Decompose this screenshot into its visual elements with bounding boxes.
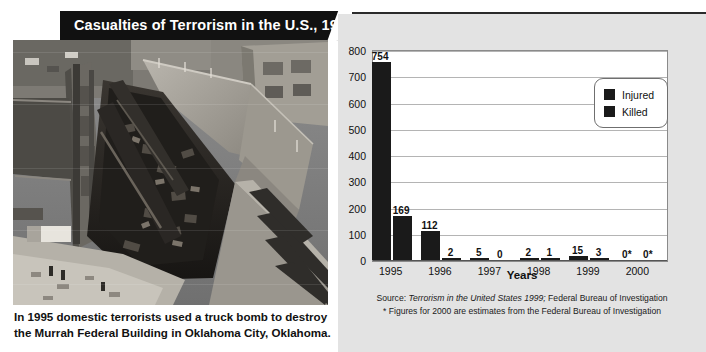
x-axis-line bbox=[373, 260, 667, 261]
legend-label-killed: Killed bbox=[622, 106, 648, 118]
legend-swatch-killed bbox=[604, 106, 615, 117]
source-suffix: Federal Bureau of Investigation bbox=[546, 293, 668, 303]
bar-value-label: 0 bbox=[497, 249, 503, 260]
y-tick-label: 600 bbox=[326, 98, 366, 110]
y-tick-label: 200 bbox=[326, 203, 366, 215]
legend-label-injured: Injured bbox=[622, 89, 654, 101]
bar bbox=[520, 258, 539, 260]
source-note: Source: Terrorism in the United States 1… bbox=[338, 292, 706, 319]
caption-line-1: In 1995 domestic terrorists used a truck… bbox=[14, 309, 334, 325]
bar bbox=[541, 258, 560, 260]
gridline bbox=[373, 130, 667, 131]
chart-panel: 0100200300400500600700800 19951996199719… bbox=[338, 14, 706, 352]
title-banner: Casualties of Terrorism in the U.S., 199… bbox=[60, 11, 352, 41]
chart-legend: Injured Killed bbox=[594, 78, 668, 128]
y-tick-label: 0 bbox=[326, 255, 366, 267]
infographic-page: Casualties of Terrorism in the U.S., 199… bbox=[0, 0, 706, 352]
bar bbox=[393, 216, 412, 260]
bar-value-label: 112 bbox=[421, 220, 437, 231]
legend-item-killed: Killed bbox=[604, 103, 659, 120]
gridline bbox=[373, 182, 667, 183]
caption-line-2: the Murrah Federal Building in Oklahoma … bbox=[14, 325, 334, 341]
y-tick-label: 300 bbox=[326, 176, 366, 188]
bar-value-label: 169 bbox=[393, 205, 410, 216]
source-line-2: * Figures for 2000 are estimates from th… bbox=[338, 305, 706, 318]
bar bbox=[569, 256, 588, 260]
aerial-photo-illustration bbox=[13, 40, 328, 305]
photo-murrah-building bbox=[13, 40, 328, 305]
photo-caption: In 1995 domestic terrorists used a truck… bbox=[14, 309, 334, 342]
bar-value-label: 2 bbox=[448, 247, 454, 258]
bar bbox=[470, 258, 489, 260]
page-title: Casualties of Terrorism in the U.S., 199… bbox=[74, 17, 352, 33]
plot-wrapper: 0100200300400500600700800 19951996199719… bbox=[372, 50, 668, 262]
bar bbox=[590, 258, 609, 260]
bar-value-label: 1 bbox=[546, 247, 552, 258]
legend-swatch-injured bbox=[604, 89, 615, 100]
bar bbox=[372, 62, 391, 260]
bar-value-label: 2 bbox=[525, 247, 531, 258]
legend-item-injured: Injured bbox=[604, 86, 659, 103]
bar-value-label: 15 bbox=[572, 245, 583, 256]
bar-value-label: 3 bbox=[596, 247, 602, 258]
y-tick-label: 700 bbox=[326, 71, 366, 83]
source-prefix: Source: bbox=[376, 293, 408, 303]
bar-value-label: 5 bbox=[476, 247, 482, 258]
gridline bbox=[373, 51, 667, 52]
y-tick-label: 100 bbox=[326, 229, 366, 241]
bar bbox=[421, 231, 440, 260]
bar-value-label: 754 bbox=[372, 51, 389, 62]
bar-value-label: 0* bbox=[622, 249, 631, 260]
gridline bbox=[373, 156, 667, 157]
y-tick-label: 500 bbox=[326, 124, 366, 136]
y-tick-label: 800 bbox=[326, 45, 366, 57]
source-line-1: Source: Terrorism in the United States 1… bbox=[338, 292, 706, 305]
y-tick-label: 400 bbox=[326, 150, 366, 162]
bar bbox=[442, 258, 461, 260]
gridline bbox=[373, 235, 667, 236]
source-publication: Terrorism in the United States 1999; bbox=[408, 293, 545, 303]
x-axis-title: Years bbox=[338, 269, 706, 281]
gridline bbox=[373, 209, 667, 210]
bar-value-label: 0* bbox=[643, 249, 652, 260]
